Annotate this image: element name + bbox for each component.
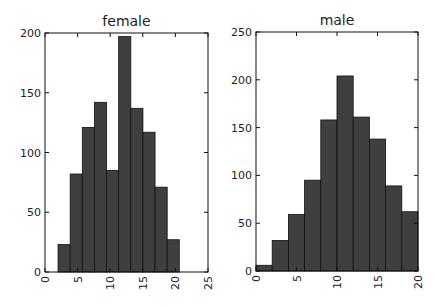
female-ytick-label: 150	[20, 87, 41, 100]
male-bar-1	[272, 240, 288, 271]
female-ytick-label: 200	[20, 27, 41, 40]
female-xtick-label: 10	[104, 276, 117, 290]
male-bar-3	[305, 180, 321, 271]
female-ytick-label: 100	[20, 147, 41, 160]
male-bar-9	[402, 212, 418, 271]
female-histogram-panel: female 0501001502000510152025	[20, 13, 215, 290]
male-bar-6	[353, 117, 369, 271]
male-bar-2	[288, 215, 304, 271]
female-xtick-label: 20	[169, 276, 182, 290]
male-bar-8	[386, 186, 402, 271]
male-bar-4	[321, 120, 337, 271]
male-xtick-label: 0	[250, 275, 263, 282]
female-bar-7	[143, 132, 155, 272]
male-histogram-panel: male 05010015020025005101520	[231, 12, 425, 289]
female-xtick-label: 15	[137, 276, 150, 290]
male-ytick-label: 250	[231, 26, 252, 39]
female-bar-6	[131, 108, 143, 272]
male-ytick-label: 150	[231, 122, 252, 135]
male-bar-0	[256, 265, 272, 271]
male-ytick-label: 100	[231, 169, 252, 182]
female-bar-5	[119, 37, 131, 272]
male-xtick-label: 20	[412, 275, 425, 289]
female-bar-9	[167, 240, 179, 272]
female-xtick-label: 25	[202, 276, 215, 290]
male-chart-title: male	[320, 12, 355, 28]
male-xtick-label: 10	[331, 275, 344, 289]
female-bar-8	[155, 187, 167, 272]
female-bar-2	[82, 127, 94, 272]
male-bar-7	[369, 139, 385, 271]
male-xtick-label: 5	[291, 275, 304, 282]
female-chart-title: female	[102, 13, 150, 29]
female-xtick-label: 5	[72, 276, 85, 283]
male-bar-5	[337, 76, 353, 271]
male-ytick-label: 50	[238, 217, 252, 230]
female-bar-4	[107, 170, 119, 272]
male-ytick-label: 200	[231, 74, 252, 87]
male-xtick-label: 15	[372, 275, 385, 289]
female-bar-1	[70, 174, 82, 272]
female-bar-0	[58, 245, 70, 272]
histogram-figure: female 0501001502000510152025 male 05010…	[0, 0, 437, 306]
female-bar-3	[94, 102, 106, 272]
female-xtick-label: 0	[39, 276, 52, 283]
female-ytick-label: 50	[27, 206, 41, 219]
